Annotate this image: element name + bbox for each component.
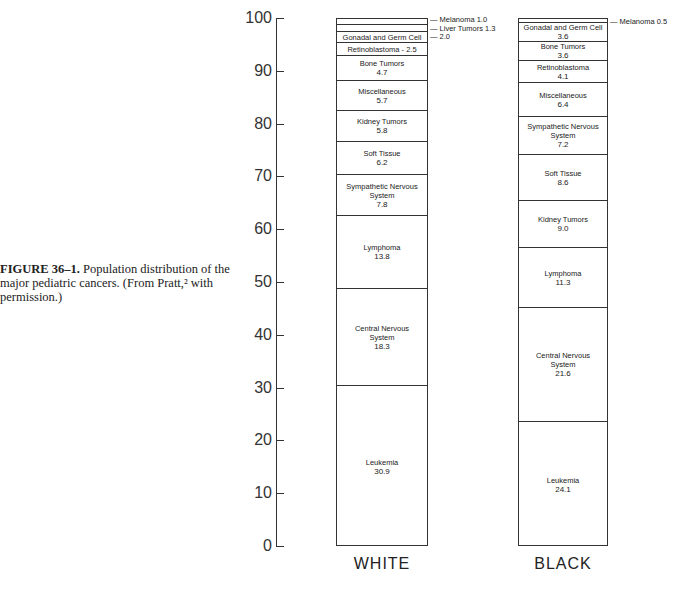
y-tick xyxy=(276,18,284,19)
y-tick xyxy=(276,282,284,283)
y-tick-label: 50 xyxy=(232,274,272,290)
callout-black-melanoma: — Melanoma 0.5 xyxy=(610,17,667,26)
segment-black-sympathetic: Sympathetic Nervous System 7.2 xyxy=(519,116,607,154)
y-tick-label: 0 xyxy=(232,538,272,554)
y-tick xyxy=(276,71,284,72)
y-tick xyxy=(276,388,284,389)
figure-label: FIGURE 36–1. xyxy=(0,262,80,276)
y-tick xyxy=(276,335,284,336)
segment-white-miscellaneous: Miscellaneous 5.7 xyxy=(337,80,427,110)
y-tick xyxy=(276,546,284,547)
y-tick xyxy=(276,124,284,125)
segment-white-leukemia: Leukemia 30.9 xyxy=(337,385,427,547)
segment-white-retinoblastoma: Retinoblastoma - 2.5 xyxy=(337,42,427,55)
segment-black-lymphoma: Lymphoma 11.3 xyxy=(519,247,607,307)
bar-label-white: WHITE xyxy=(332,555,432,573)
bar-black: Gonadal and Germ Cell 3.6 Bone Tumors 3.… xyxy=(518,18,608,546)
figure-caption: FIGURE 36–1. Population distribution of … xyxy=(0,262,250,304)
segment-black-soft-tissue: Soft Tissue 8.6 xyxy=(519,154,607,200)
segment-white-liver-tumors xyxy=(337,24,427,31)
segment-black-miscellaneous: Miscellaneous 6.4 xyxy=(519,82,607,116)
segment-white-cns: Central Nervous System 18.3 xyxy=(337,288,427,385)
callout-white-melanoma: — Melanoma 1.0 xyxy=(430,15,487,24)
y-tick-label: 30 xyxy=(232,380,272,396)
segment-white-kidney-tumors: Kidney Tumors 5.8 xyxy=(337,110,427,141)
segment-white-lymphoma: Lymphoma 13.8 xyxy=(337,215,427,288)
segment-black-cns: Central Nervous System 21.6 xyxy=(519,307,607,421)
y-tick-label: 100 xyxy=(232,10,272,26)
callout-white-gonadal-value: — 2.0 xyxy=(430,32,450,41)
y-tick-label: 80 xyxy=(232,116,272,132)
y-tick-label: 40 xyxy=(232,327,272,343)
bar-white: Gonadal and Germ Cell Retinoblastoma - 2… xyxy=(336,18,428,546)
bar-label-black: BLACK xyxy=(513,555,613,573)
y-tick-label: 60 xyxy=(232,221,272,237)
y-tick-label: 20 xyxy=(232,432,272,448)
segment-white-gonadal: Gonadal and Germ Cell xyxy=(337,31,427,42)
segment-white-soft-tissue: Soft Tissue 6.2 xyxy=(337,141,427,174)
segment-black-kidney-tumors: Kidney Tumors 9.0 xyxy=(519,200,607,247)
segment-black-leukemia: Leukemia 24.1 xyxy=(519,421,607,547)
y-tick xyxy=(276,493,284,494)
segment-black-retinoblastoma: Retinoblastoma 4.1 xyxy=(519,60,607,82)
segment-white-bone-tumors: Bone Tumors 4.7 xyxy=(337,55,427,80)
y-tick-label: 10 xyxy=(232,485,272,501)
segment-black-bone-tumors: Bone Tumors 3.6 xyxy=(519,41,607,60)
y-tick-label: 70 xyxy=(232,168,272,184)
y-tick xyxy=(276,229,284,230)
segment-black-gonadal: Gonadal and Germ Cell 3.6 xyxy=(519,22,607,41)
y-tick xyxy=(276,440,284,441)
y-tick xyxy=(276,176,284,177)
segment-white-sympathetic: Sympathetic Nervous System 7.8 xyxy=(337,174,427,215)
y-tick-label: 90 xyxy=(232,63,272,79)
